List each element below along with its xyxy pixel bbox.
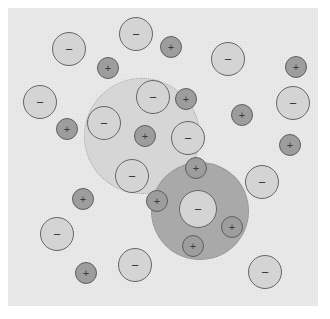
anion-10: − (179, 190, 217, 228)
plus-icon: + (168, 41, 174, 52)
plus-icon: + (105, 62, 111, 73)
anion-4: − (23, 85, 57, 119)
plus-icon: + (80, 193, 86, 204)
minus-icon: − (224, 52, 232, 65)
plus-icon: + (64, 123, 70, 134)
anion-8: − (171, 121, 205, 155)
minus-icon: − (132, 27, 140, 40)
minus-icon: − (100, 116, 108, 129)
anion-5: − (136, 80, 170, 114)
cation-6: + (134, 125, 156, 147)
minus-icon: − (53, 227, 61, 240)
cation-5: + (56, 118, 78, 140)
cation-10: + (72, 188, 94, 210)
plus-icon: + (287, 139, 293, 150)
ion-layer: −−+−++−−+−+−+−++−+++−−+−++−− (8, 8, 318, 306)
anion-1: − (52, 32, 86, 66)
minus-icon: − (128, 169, 136, 182)
cation-7: + (231, 104, 253, 126)
minus-icon: − (149, 90, 157, 103)
anion-7: − (87, 106, 121, 140)
minus-icon: − (36, 95, 44, 108)
plus-icon: + (193, 162, 199, 173)
minus-icon: − (194, 202, 202, 215)
minus-icon: − (258, 175, 266, 188)
plus-icon: + (183, 93, 189, 104)
anion-11: − (245, 165, 279, 199)
minus-icon: − (131, 258, 139, 271)
cation-12: + (221, 216, 243, 238)
cation-1: + (160, 36, 182, 58)
minus-icon: − (289, 96, 297, 109)
anion-12: − (40, 217, 74, 251)
anion-6: − (276, 86, 310, 120)
solution-panel: −−+−++−−+−+−+−++−+++−−+−++−− (8, 8, 318, 306)
anion-13: − (118, 248, 152, 282)
anion-3: − (211, 42, 245, 76)
cation-3: + (285, 56, 307, 78)
anion-2: − (119, 17, 153, 51)
plus-icon: + (239, 109, 245, 120)
plus-icon: + (229, 221, 235, 232)
cation-9: + (185, 157, 207, 179)
anion-14: − (248, 255, 282, 289)
plus-icon: + (293, 61, 299, 72)
minus-icon: − (261, 265, 269, 278)
cation-13: + (182, 235, 204, 257)
cation-11: + (146, 190, 168, 212)
plus-icon: + (154, 195, 160, 206)
plus-icon: + (190, 240, 196, 251)
minus-icon: − (65, 42, 73, 55)
plus-icon: + (142, 130, 148, 141)
cation-4: + (175, 88, 197, 110)
ion-solution-figure: −−+−++−−+−+−+−++−+++−−+−++−− (0, 0, 330, 319)
cation-8: + (279, 134, 301, 156)
cation-14: + (75, 262, 97, 284)
minus-icon: − (184, 131, 192, 144)
cation-2: + (97, 57, 119, 79)
plus-icon: + (83, 267, 89, 278)
anion-9: − (115, 159, 149, 193)
